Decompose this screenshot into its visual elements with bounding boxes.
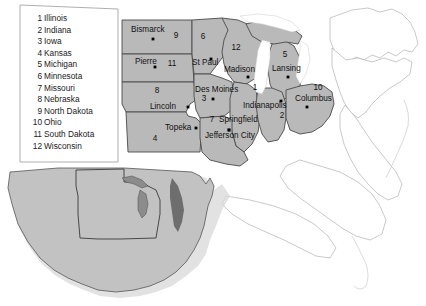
city-label-pierre[interactable]: Pierre bbox=[135, 57, 157, 66]
city-dot-columbus bbox=[306, 106, 309, 109]
midwest-reference-map: 1Illinois2Indiana3Iowa4Kansas5Michigan6M… bbox=[0, 0, 426, 306]
legend-number-missouri: 7 bbox=[37, 83, 42, 93]
state-ohio[interactable] bbox=[286, 84, 334, 134]
legend-label-wisconsin[interactable]: Wisconsin bbox=[44, 141, 82, 151]
state-number-michigan: 5 bbox=[283, 50, 288, 59]
legend-number-illinois: 1 bbox=[37, 13, 42, 23]
city-label-des-moines[interactable]: Des Moines bbox=[195, 85, 238, 94]
state-kansas[interactable] bbox=[126, 112, 202, 152]
lake-huron-erie bbox=[296, 40, 310, 84]
city-label-springfield[interactable]: Springfield bbox=[219, 115, 258, 124]
city-dot-bismarck bbox=[152, 38, 155, 41]
legend-number-ohio: 10 bbox=[33, 117, 43, 127]
legend-number-minnesota: 6 bbox=[37, 71, 42, 81]
legend-number-wisconsin: 12 bbox=[33, 141, 43, 151]
legend-number-michigan: 5 bbox=[37, 59, 42, 69]
city-dot-madison bbox=[247, 76, 250, 79]
legend-label-nebraska[interactable]: Nebraska bbox=[44, 94, 80, 104]
city-label-st-paul[interactable]: St Paul bbox=[192, 58, 219, 67]
legend-label-minnesota[interactable]: Minnesota bbox=[44, 71, 83, 81]
state-number-iowa: 3 bbox=[202, 94, 207, 103]
city-label-columbus[interactable]: Columbus bbox=[295, 94, 332, 103]
legend-label-missouri[interactable]: Missouri bbox=[44, 83, 75, 93]
city-dot-jefferson-city bbox=[228, 129, 231, 132]
legend-label-south-dakota[interactable]: South Dakota bbox=[44, 129, 95, 139]
city-label-bismarck[interactable]: Bismarck bbox=[131, 25, 166, 34]
city-dot-st-paul bbox=[210, 58, 213, 61]
state-number-indiana: 2 bbox=[280, 111, 285, 120]
city-label-jefferson-city[interactable]: Jefferson City bbox=[205, 131, 256, 140]
state-number-minnesota: 6 bbox=[201, 32, 206, 41]
city-dot-des-moines bbox=[212, 98, 215, 101]
city-label-topeka[interactable]: Topeka bbox=[165, 123, 192, 132]
state-iowa[interactable] bbox=[194, 74, 234, 118]
state-number-missouri: 7 bbox=[210, 115, 215, 124]
state-south-dakota[interactable] bbox=[122, 54, 194, 82]
florida-outline bbox=[352, 236, 368, 289]
legend-label-iowa[interactable]: Iowa bbox=[44, 36, 62, 46]
city-label-lansing[interactable]: Lansing bbox=[272, 64, 301, 73]
legend-label-kansas[interactable]: Kansas bbox=[44, 48, 72, 58]
legend-label-illinois[interactable]: Illinois bbox=[44, 13, 67, 23]
state-number-kansas: 4 bbox=[153, 134, 158, 143]
city-dot-pierre bbox=[154, 66, 157, 69]
legend-label-north-dakota[interactable]: North Dakota bbox=[44, 106, 93, 116]
inset-locator-map bbox=[8, 168, 230, 298]
map-figure: 1Illinois2Indiana3Iowa4Kansas5Michigan6M… bbox=[0, 0, 426, 306]
state-number-illinois: 1 bbox=[253, 83, 258, 92]
city-dot-lansing bbox=[287, 76, 290, 79]
legend-number-indiana: 2 bbox=[37, 25, 42, 35]
state-number-north-dakota: 9 bbox=[174, 31, 179, 40]
legend-label-ohio[interactable]: Ohio bbox=[44, 117, 62, 127]
state-number-nebraska: 8 bbox=[155, 86, 160, 95]
city-dot-topeka bbox=[195, 127, 198, 130]
legend-label-indiana[interactable]: Indiana bbox=[44, 25, 72, 35]
legend-panel: 1Illinois2Indiana3Iowa4Kansas5Michigan6M… bbox=[20, 5, 118, 162]
city-dot-indianapolis bbox=[280, 100, 283, 103]
legend-number-north-dakota: 9 bbox=[37, 106, 42, 116]
legend-number-iowa: 3 bbox=[37, 36, 42, 46]
state-number-wisconsin: 12 bbox=[231, 43, 241, 52]
state-number-south-dakota: 11 bbox=[168, 59, 177, 68]
city-label-lincoln[interactable]: Lincoln bbox=[150, 102, 176, 111]
city-dot-lincoln bbox=[187, 106, 190, 109]
legend-number-kansas: 4 bbox=[37, 48, 42, 58]
state-number-ohio: 10 bbox=[313, 83, 323, 92]
legend-number-nebraska: 8 bbox=[37, 94, 42, 104]
legend-label-michigan[interactable]: Michigan bbox=[44, 59, 78, 69]
city-label-madison[interactable]: Madison bbox=[224, 65, 255, 74]
northeast-outline bbox=[330, 8, 418, 62]
legend-number-south-dakota: 11 bbox=[33, 129, 42, 139]
